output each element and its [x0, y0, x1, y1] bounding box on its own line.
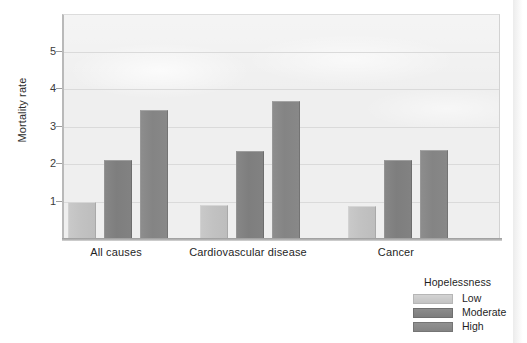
bar-moderate	[104, 160, 132, 239]
legend-item-label: Low	[462, 293, 481, 304]
bar-low	[200, 205, 228, 240]
bar-face	[68, 202, 96, 240]
y-axis-tick-mark	[56, 51, 62, 52]
bar-high	[420, 150, 448, 239]
legend-swatch-moderate	[413, 308, 453, 318]
bar-face	[348, 206, 376, 239]
legend-item: Low	[413, 292, 527, 305]
y-axis-tick-label: 3	[40, 120, 56, 131]
legend-item-label: High	[462, 321, 484, 332]
bar-face	[200, 205, 228, 240]
bar-moderate	[236, 151, 264, 239]
legend-title: Hopelessness	[424, 276, 527, 288]
bar-face	[104, 160, 132, 239]
x-axis-category-label: Cardiovascular disease	[189, 246, 307, 258]
bar-chart-figure: 12345 Mortality rate All causesCardiovas…	[0, 0, 527, 343]
gridline	[64, 52, 499, 53]
legend-item: Moderate	[413, 306, 527, 319]
y-axis-tick-label: 4	[40, 83, 56, 94]
bar-face	[420, 150, 448, 239]
legend-swatch-low	[413, 294, 453, 304]
x-axis-category-label: Cancer	[378, 246, 414, 258]
y-axis-tick-mark	[56, 163, 62, 164]
bar-low	[68, 202, 96, 240]
y-axis-tick-mark	[56, 201, 62, 202]
bar-face	[272, 101, 300, 239]
legend-swatch-high	[413, 322, 453, 332]
bar-high	[272, 101, 300, 239]
bar-face	[384, 160, 412, 239]
legend-item-label: Moderate	[462, 307, 506, 318]
y-axis-tick-labels: 12345	[38, 0, 56, 343]
legend-items: LowModerateHigh	[413, 292, 527, 333]
legend: Hopelessness LowModerateHigh	[413, 276, 527, 334]
y-axis-tick-mark	[56, 126, 62, 127]
y-axis-tick-label: 1	[40, 195, 56, 206]
bar-high	[140, 110, 168, 239]
plot-area	[62, 14, 500, 238]
x-axis-category-label: All causes	[90, 246, 142, 258]
bar-face	[140, 110, 168, 239]
y-axis-tick-label: 2	[40, 158, 56, 169]
y-axis-tick-mark	[56, 88, 62, 89]
y-axis-tick-label: 5	[40, 45, 56, 56]
bar-moderate	[384, 160, 412, 239]
legend-item: High	[413, 320, 527, 333]
bar-low	[348, 206, 376, 239]
bar-face	[236, 151, 264, 239]
y-axis-title: Mortality rate	[16, 50, 28, 170]
x-axis-baseline	[62, 238, 502, 241]
gridline	[64, 89, 499, 90]
y-axis-tick-marks	[56, 0, 62, 343]
